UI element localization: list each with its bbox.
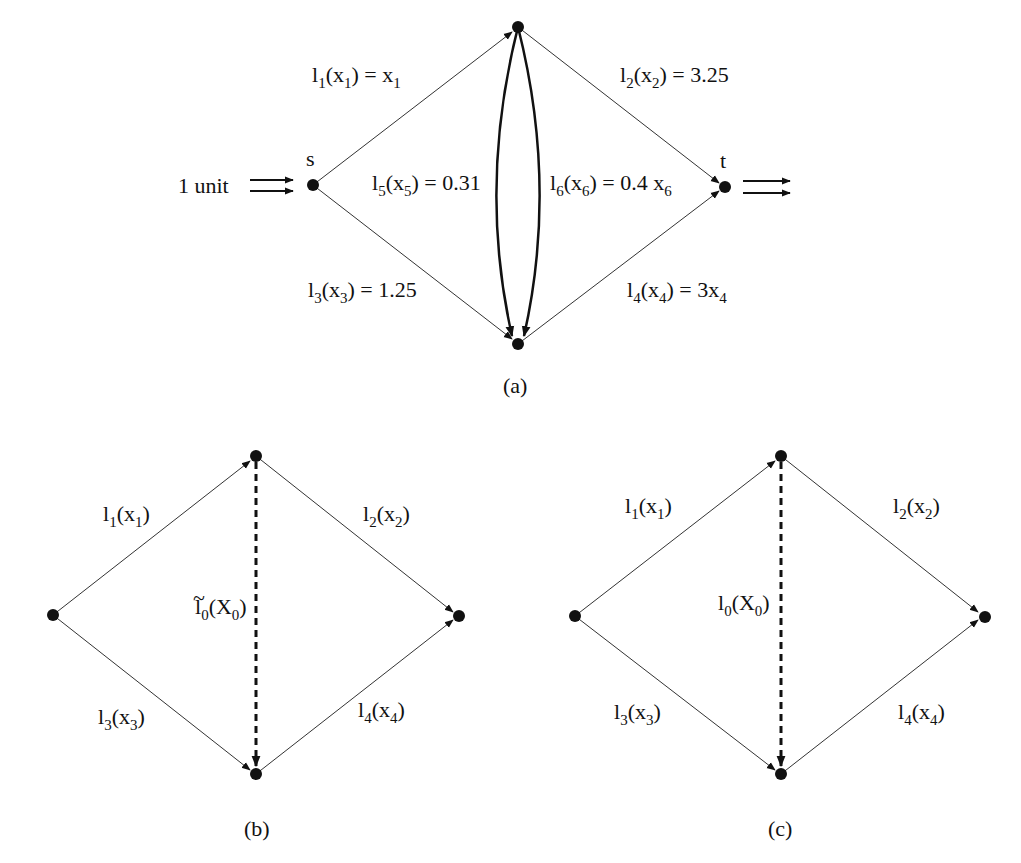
node-c-left <box>569 610 581 622</box>
edge-curved-right <box>518 27 540 336</box>
svg-text:l3(x3): l3(x3) <box>98 704 145 733</box>
edge-s-bottom <box>313 185 512 339</box>
caption-a: (a) <box>503 373 527 398</box>
node-t <box>719 181 731 193</box>
edge-c-4 <box>781 620 978 774</box>
edge-top-t <box>518 27 719 183</box>
node-b-right <box>453 610 465 622</box>
svg-text:l0(X0): l0(X0) <box>718 590 770 619</box>
edge-label-c-1: l1(x1) <box>625 493 672 522</box>
edge-label-c-3: l3(x3) <box>614 699 661 728</box>
edge-bottom-t <box>518 191 719 344</box>
svg-text:l2(x2): l2(x2) <box>893 493 940 522</box>
node-bottom <box>512 338 524 350</box>
edge-label-4: l4(x4) = 3x4 <box>627 277 727 306</box>
edge-label-5: l5(x5) = 0.31 <box>372 170 481 199</box>
svg-text:l1(x1): l1(x1) <box>103 501 150 530</box>
edge-label-b-0: ~ l0(X0) <box>193 585 247 623</box>
edge-label-c-4: l4(x4) <box>898 699 945 728</box>
input-label: 1 unit <box>178 173 229 198</box>
svg-text:l6(x6) = 0.4 x6: l6(x6) = 0.4 x6 <box>550 170 672 199</box>
svg-text:l1(x1): l1(x1) <box>625 493 672 522</box>
node-c-bottom <box>775 768 787 780</box>
edge-b-4 <box>256 620 453 774</box>
panel-c: l1(x1) l2(x2) l3(x3) l4(x4) l0(X0) (c) <box>569 450 991 841</box>
edge-label-1: l1(x1) = x1 <box>312 62 401 91</box>
edge-label-b-2: l2(x2) <box>363 501 410 530</box>
edge-b-1 <box>53 461 250 615</box>
caption-c: (c) <box>768 816 792 841</box>
edge-label-c-2: l2(x2) <box>893 493 940 522</box>
svg-text:l4(x4) = 3x4: l4(x4) = 3x4 <box>627 277 727 306</box>
node-c-top <box>775 450 787 462</box>
node-t-label: t <box>720 148 726 173</box>
node-s <box>307 179 319 191</box>
edge-label-6: l6(x6) = 0.4 x6 <box>550 170 672 199</box>
svg-text:l4(x4): l4(x4) <box>358 697 405 726</box>
edge-label-b-4: l4(x4) <box>358 697 405 726</box>
edge-label-c-0: l0(X0) <box>718 590 770 619</box>
edge-c-3 <box>575 616 775 770</box>
edge-label-b-3: l3(x3) <box>98 704 145 733</box>
svg-text:l5(x5) = 0.31: l5(x5) = 0.31 <box>372 170 481 199</box>
edge-b-3 <box>53 615 250 770</box>
edge-curved-left <box>496 27 518 336</box>
panel-b: l1(x1) l2(x2) l3(x3) l4(x4) ~ l0(X0) (b) <box>47 450 465 841</box>
panel-a: 1 unit s t l1(x1) = x1 l2(x2) = 3.25 l3(… <box>178 21 790 398</box>
caption-b: (b) <box>244 816 270 841</box>
edge-s-top <box>313 32 512 185</box>
svg-text:l3(x3) = 1.25: l3(x3) = 1.25 <box>308 277 417 306</box>
edge-label-3: l3(x3) = 1.25 <box>308 277 417 306</box>
node-b-top <box>250 450 262 462</box>
node-top <box>512 21 524 33</box>
node-b-bottom <box>250 768 262 780</box>
edge-b-2 <box>256 456 453 612</box>
node-c-right <box>979 611 991 623</box>
svg-text:l2(x2) = 3.25: l2(x2) = 3.25 <box>620 62 729 91</box>
svg-text:l2(x2): l2(x2) <box>363 501 410 530</box>
edge-label-2: l2(x2) = 3.25 <box>620 62 729 91</box>
svg-text:l1(x1) = x1: l1(x1) = x1 <box>312 62 401 91</box>
edge-c-2 <box>781 456 978 612</box>
svg-text:l3(x3): l3(x3) <box>614 699 661 728</box>
node-b-left <box>47 609 59 621</box>
figure-canvas: 1 unit s t l1(x1) = x1 l2(x2) = 3.25 l3(… <box>0 0 1021 863</box>
edge-label-b-1: l1(x1) <box>103 501 150 530</box>
node-s-label: s <box>306 146 315 171</box>
svg-text:l4(x4): l4(x4) <box>898 699 945 728</box>
